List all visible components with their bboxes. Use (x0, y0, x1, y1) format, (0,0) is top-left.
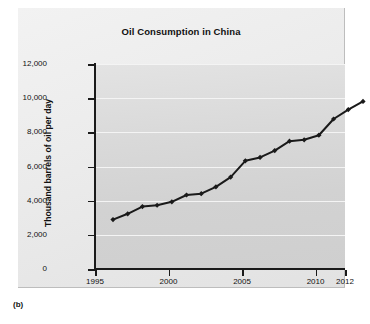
gridline (95, 235, 345, 236)
y-tick-mark (88, 235, 95, 237)
gridline (95, 98, 345, 99)
y-tick-mark (88, 132, 95, 134)
y-tick-label: 0 (0, 264, 47, 273)
y-tick-label: 6,000 (0, 162, 47, 171)
x-tick-mark (316, 270, 318, 276)
figure-caption: (b) (13, 300, 23, 309)
data-point-marker (360, 99, 365, 104)
x-tick-mark (345, 270, 347, 276)
plot-area (95, 64, 345, 269)
y-tick-mark (88, 269, 95, 271)
x-axis-line (94, 268, 345, 270)
gridline (95, 201, 345, 202)
y-tick-mark (88, 64, 95, 66)
chart-title: Oil Consumption in China (18, 26, 344, 37)
gridline (95, 64, 345, 65)
y-tick-label: 8,000 (0, 127, 47, 136)
x-tick-label: 2012 (325, 277, 365, 286)
y-tick-mark (88, 201, 95, 203)
x-tick-mark (169, 270, 171, 276)
x-tick-label: 2005 (222, 277, 262, 286)
data-point-marker (346, 107, 351, 112)
y-tick-label: 10,000 (0, 93, 47, 102)
y-axis-label: Thousand barrels of oil per day (43, 63, 53, 263)
x-tick-mark (242, 270, 244, 276)
gridline (95, 132, 345, 133)
gridline (95, 167, 345, 168)
x-tick-label: 1995 (75, 277, 115, 286)
y-tick-label: 2,000 (0, 230, 47, 239)
x-tick-label: 2000 (149, 277, 189, 286)
y-tick-mark (88, 98, 95, 100)
chart-panel: Oil Consumption in China 02,0004,0006,00… (18, 8, 345, 288)
x-tick-mark (95, 270, 97, 276)
y-tick-label: 12,000 (0, 59, 47, 68)
y-tick-label: 4,000 (0, 196, 47, 205)
y-tick-mark (88, 167, 95, 169)
